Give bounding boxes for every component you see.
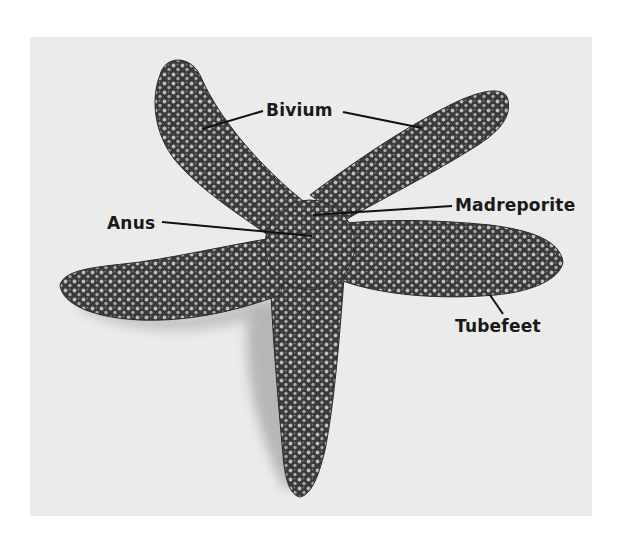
tubefeet-leader: [490, 295, 503, 314]
starfish-shadow: [80, 300, 300, 490]
bivium-leader-right: [343, 112, 422, 128]
label-madreporite: Madreporite: [455, 197, 575, 214]
label-tubefeet: Tubefeet: [455, 318, 541, 335]
label-bivium: Bivium: [266, 102, 333, 119]
starfish-photo: [0, 0, 618, 541]
starfish-body: [60, 60, 563, 497]
label-anus: Anus: [107, 215, 155, 232]
